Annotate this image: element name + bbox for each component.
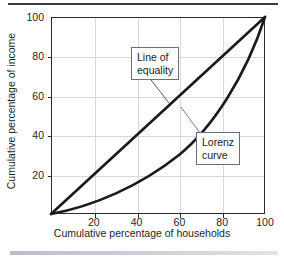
y-tick-label-40: 40 [14,129,44,141]
lorenz-curve-figure: Line of equality Lorenz curve 20 40 60 8… [0,0,284,261]
y-tick-label-80: 80 [14,50,44,62]
leader-line-lorenz [181,107,200,133]
leader-line-equality [148,76,169,103]
y-tick-label-60: 60 [14,90,44,102]
annotation-lorenz-curve: Lorenz curve [196,132,240,165]
y-axis-title: Cumulative percentage of income [5,16,17,206]
y-tick-label-20: 20 [14,169,44,181]
annotation-line-of-equality: Line of equality [131,47,179,80]
x-axis-title: Cumulative percentage of households [0,227,284,239]
bottom-decorative-band [10,251,278,255]
y-tick-label-100: 100 [14,11,44,23]
